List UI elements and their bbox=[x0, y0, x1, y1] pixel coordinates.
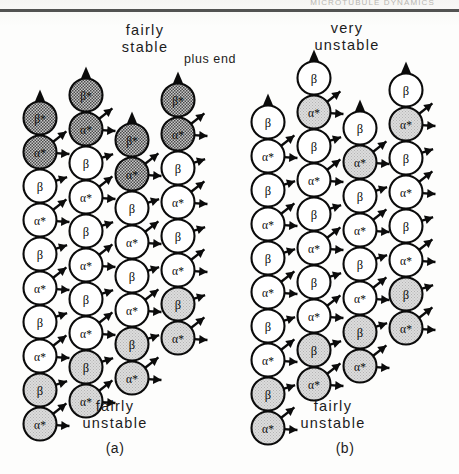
tubulin-subunit-label: β bbox=[265, 116, 271, 130]
tubulin-subunit-label: β bbox=[37, 248, 43, 262]
tubulin-subunit-label: α* bbox=[262, 287, 274, 299]
tubulin-subunit-label: α* bbox=[354, 225, 366, 237]
tubulin-subunit-label: α* bbox=[126, 373, 138, 385]
tubulin-subunit-label: α* bbox=[34, 215, 46, 227]
tubulin-subunit-label: α* bbox=[126, 237, 138, 249]
tubulin-subunit-label: α* bbox=[308, 243, 320, 255]
tubulin-subunit-label: α* bbox=[354, 361, 366, 373]
tubulin-subunit-label: α* bbox=[34, 419, 46, 431]
tubulin-subunit-label: α* bbox=[400, 255, 412, 267]
tubulin-subunit-label: α* bbox=[400, 119, 412, 131]
tubulin-subunit-label: α* bbox=[308, 311, 320, 323]
tubulin-subunit-label: β bbox=[83, 361, 89, 375]
tubulin-subunit-label: α* bbox=[262, 151, 274, 163]
tubulin-subunit-label: α* bbox=[126, 305, 138, 317]
tubulin-subunit-label: β bbox=[357, 190, 363, 204]
tubulin-subunit-label: α* bbox=[308, 107, 320, 119]
tubulin-subunit-label: β bbox=[175, 230, 181, 244]
panel-a-top-label: fairly stable bbox=[60, 22, 230, 56]
tubulin-subunit-label: β bbox=[37, 180, 43, 194]
tubulin-subunit-label: β bbox=[265, 184, 271, 198]
running-head-text: MICROTUBULE DYNAMICS bbox=[286, 0, 459, 9]
tubulin-subunit-label: β bbox=[403, 220, 409, 234]
tubulin-subunit-label: β bbox=[83, 225, 89, 239]
tubulin-subunit-label: β* bbox=[80, 90, 92, 103]
tubulin-subunit-label: α* bbox=[262, 219, 274, 231]
tubulin-subunit-label: β bbox=[175, 162, 181, 176]
tubulin-subunit-label: β bbox=[37, 316, 43, 330]
tubulin-subunit-label: β bbox=[311, 276, 317, 290]
tubulin-subunit-label: β bbox=[311, 72, 317, 86]
tubulin-subunit-label: α* bbox=[34, 351, 46, 363]
tubulin-subunit-label: α* bbox=[354, 157, 366, 169]
panel-b-caption: (b) bbox=[290, 440, 400, 456]
tubulin-subunit-label: β bbox=[403, 288, 409, 302]
panel-b-bottom-label: fairly unstable bbox=[268, 398, 398, 432]
tubulin-subunit-label: β bbox=[129, 338, 135, 352]
tubulin-subunit-label: β bbox=[83, 157, 89, 171]
plus-end-label: plus end bbox=[151, 52, 269, 66]
tubulin-subunit-label: β bbox=[357, 258, 363, 272]
tubulin-subunit-label: α* bbox=[80, 328, 92, 340]
tubulin-subunit-label: β bbox=[357, 122, 363, 136]
tubulin-subunit-label: α* bbox=[172, 265, 184, 277]
tubulin-subunit-label: α* bbox=[34, 283, 46, 295]
tubulin-subunit-label: β bbox=[83, 293, 89, 307]
tubulin-subunit-label: β bbox=[311, 208, 317, 222]
panel-a-protofilaments: β*α*βα*βα*βα*βα*β*α*βα*βα*βα*βα*β*α*βα*β… bbox=[24, 67, 208, 441]
tubulin-subunit-label: α* bbox=[80, 260, 92, 272]
tubulin-subunit-label: β* bbox=[126, 135, 138, 148]
tubulin-subunit-label: α* bbox=[80, 124, 92, 136]
panel-b-protofilaments: βα*βα*βα*βα*βα*βα*βα*βα*βα*βα*βα*βα*βα*β… bbox=[252, 50, 436, 445]
tubulin-subunit-label: β bbox=[265, 252, 271, 266]
tubulin-subunit-label: α* bbox=[172, 333, 184, 345]
tubulin-subunit-label: β bbox=[357, 326, 363, 340]
tubulin-subunit-label: α* bbox=[308, 175, 320, 187]
tubulin-subunit-label: α* bbox=[400, 323, 412, 335]
tubulin-subunit-label: α* bbox=[34, 147, 46, 159]
tubulin-subunit-label: β bbox=[311, 140, 317, 154]
tubulin-subunit-label: α* bbox=[308, 379, 320, 391]
tubulin-subunit-label: α* bbox=[80, 192, 92, 204]
tubulin-subunit-label: β bbox=[37, 384, 43, 398]
tubulin-subunit-label: β bbox=[129, 270, 135, 284]
panel-a-caption: (a) bbox=[60, 440, 170, 456]
running-head-rule bbox=[0, 9, 459, 12]
tubulin-subunit-label: α* bbox=[400, 187, 412, 199]
tubulin-subunit-label: β* bbox=[172, 95, 184, 108]
tubulin-subunit-label: β bbox=[129, 202, 135, 216]
tubulin-subunit-label: β bbox=[265, 320, 271, 334]
panel-b-top-label: very unstable bbox=[272, 20, 422, 54]
panel-a-bottom-label: fairly unstable bbox=[50, 398, 180, 432]
tubulin-subunit-label: β bbox=[311, 344, 317, 358]
figure-page: MICROTUBULE DYNAMICS fairly stable very … bbox=[0, 0, 459, 474]
tubulin-subunit-label: β* bbox=[34, 113, 46, 126]
tubulin-subunit-label: α* bbox=[172, 129, 184, 141]
tubulin-subunit-label: β bbox=[403, 84, 409, 98]
tubulin-subunit-label: β bbox=[403, 152, 409, 166]
tubulin-subunit-label: α* bbox=[262, 355, 274, 367]
tubulin-subunit-label: α* bbox=[172, 197, 184, 209]
tubulin-subunit-label: α* bbox=[126, 169, 138, 181]
tubulin-subunit-label: α* bbox=[354, 293, 366, 305]
tubulin-subunit-label: β bbox=[175, 298, 181, 312]
